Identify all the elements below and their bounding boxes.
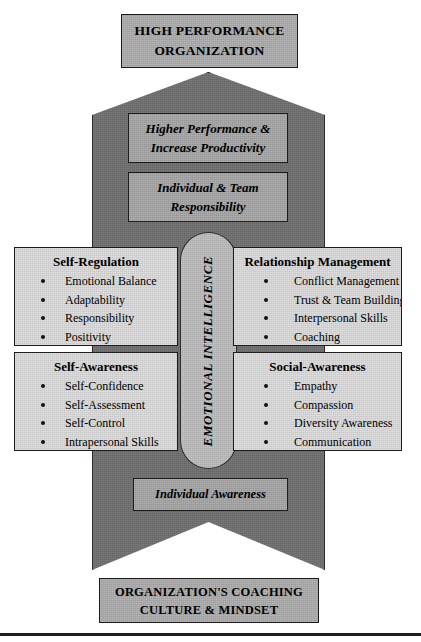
- list-item-label: Communication: [294, 435, 371, 449]
- bullet-icon: [264, 335, 268, 339]
- top-cap-line-1: HIGH PERFORMANCE: [135, 21, 285, 41]
- quadrant-title-self-regulation: Self-Regulation: [19, 253, 173, 270]
- list-item: Communication: [238, 433, 397, 452]
- list-item-label: Self-Confidence: [65, 379, 144, 393]
- list-item-label: Emotional Balance: [65, 274, 157, 288]
- bottom-cap-line-2: CULTURE & MINDSET: [140, 601, 278, 619]
- quadrant-list-relationship-management: Conflict Management Trust & Team Buildin…: [238, 272, 397, 346]
- emotional-intelligence-ellipse: EMOTIONAL INTELLIGENCE: [180, 232, 237, 469]
- list-item-label: Diversity Awareness: [294, 416, 393, 430]
- list-item: Adaptability: [19, 291, 173, 310]
- list-item-label: Interpersonal Skills: [294, 311, 388, 325]
- quadrant-title-social-awareness: Social-Awareness: [238, 358, 397, 375]
- list-item-label: Conflict Management: [294, 274, 399, 288]
- list-item-label: Empathy: [294, 379, 337, 393]
- list-item-label: Trust & Team Building: [294, 293, 402, 307]
- individual-team-responsibility-banner: Individual & Team Responsibility: [128, 172, 288, 222]
- quadrant-list-self-awareness: Self-Confidence Self-Assessment Self-Con…: [19, 377, 173, 451]
- bullet-icon: [264, 279, 268, 283]
- bullet-icon: [264, 298, 268, 302]
- list-item-label: Intrapersonal Skills: [65, 435, 159, 449]
- list-item: Emotional Balance: [19, 272, 173, 291]
- individual-team-line-2: Responsibility: [170, 197, 245, 216]
- list-item-label: Self-Control: [65, 416, 125, 430]
- list-item: Self-Assessment: [19, 396, 173, 415]
- bullet-icon: [264, 316, 268, 320]
- emotional-intelligence-label: EMOTIONAL INTELLIGENCE: [201, 255, 217, 446]
- list-item: Positivity: [19, 328, 173, 347]
- quadrant-relationship-management: Relationship Management Conflict Managem…: [233, 247, 402, 346]
- quadrant-title-self-awareness: Self-Awareness: [19, 358, 173, 375]
- higher-performance-banner: Higher Performance & Increase Productivi…: [128, 113, 288, 163]
- list-item-label: Positivity: [65, 330, 111, 344]
- bottom-cap-line-1: ORGANIZATION'S COACHING: [115, 583, 303, 601]
- list-item: Diversity Awareness: [238, 414, 397, 433]
- higher-performance-line-1: Higher Performance &: [146, 119, 271, 138]
- individual-team-line-1: Individual & Team: [157, 178, 258, 197]
- bullet-icon: [41, 279, 45, 283]
- list-item-label: Compassion: [294, 398, 353, 412]
- bullet-icon: [264, 421, 268, 425]
- list-item-label: Self-Assessment: [65, 398, 145, 412]
- bullet-icon: [41, 316, 45, 320]
- top-cap-line-2: ORGANIZATION: [154, 41, 264, 61]
- quadrant-list-self-regulation: Emotional Balance Adaptability Responsib…: [19, 272, 173, 346]
- diagram-canvas: HIGH PERFORMANCE ORGANIZATION Higher Per…: [0, 0, 421, 642]
- bullet-icon: [41, 421, 45, 425]
- quadrant-list-social-awareness: Empathy Compassion Diversity Awareness C…: [238, 377, 397, 451]
- bullet-icon: [41, 440, 45, 444]
- list-item-label: Responsibility: [65, 311, 134, 325]
- bullet-icon: [41, 335, 45, 339]
- quadrant-title-relationship-management: Relationship Management: [238, 253, 397, 270]
- bottom-divider: [0, 633, 421, 636]
- list-item: Self-Control: [19, 414, 173, 433]
- list-item: Self-Confidence: [19, 377, 173, 396]
- organizations-coaching-culture-box: ORGANIZATION'S COACHING CULTURE & MINDSE…: [99, 578, 319, 623]
- list-item: Coaching: [238, 328, 397, 347]
- quadrant-self-regulation: Self-Regulation Emotional Balance Adapta…: [14, 247, 178, 346]
- high-performance-organization-box: HIGH PERFORMANCE ORGANIZATION: [121, 14, 298, 68]
- list-item: Compassion: [238, 396, 397, 415]
- quadrant-self-awareness: Self-Awareness Self-Confidence Self-Asse…: [14, 352, 178, 451]
- list-item-label: Adaptability: [65, 293, 125, 307]
- list-item: Intrapersonal Skills: [19, 433, 173, 452]
- quadrant-social-awareness: Social-Awareness Empathy Compassion Dive…: [233, 352, 402, 451]
- bullet-icon: [264, 440, 268, 444]
- individual-awareness-line-1: Individual Awareness: [155, 485, 266, 504]
- individual-awareness-banner: Individual Awareness: [133, 478, 288, 511]
- list-item: Interpersonal Skills: [238, 309, 397, 328]
- list-item: Responsibility: [19, 309, 173, 328]
- list-item: Trust & Team Building: [238, 291, 397, 310]
- list-item: Empathy: [238, 377, 397, 396]
- higher-performance-line-2: Increase Productivity: [151, 138, 265, 157]
- list-item: Conflict Management: [238, 272, 397, 291]
- list-item-label: Coaching: [294, 330, 340, 344]
- bullet-icon: [264, 403, 268, 407]
- bullet-icon: [264, 384, 268, 388]
- bullet-icon: [41, 384, 45, 388]
- bullet-icon: [41, 298, 45, 302]
- bullet-icon: [41, 403, 45, 407]
